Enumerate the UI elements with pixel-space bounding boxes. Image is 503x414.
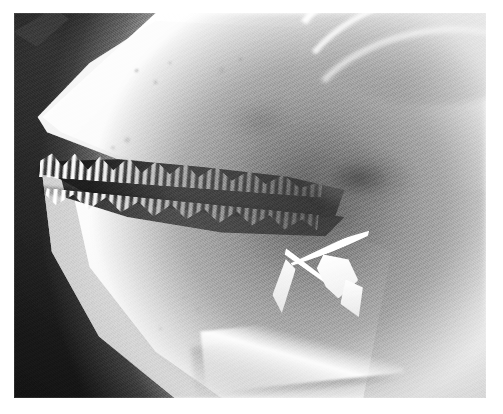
page-canvas — [0, 0, 503, 414]
figure-caption — [14, 400, 486, 412]
plate-edge-outline — [14, 13, 486, 398]
radiograph-plate — [14, 13, 486, 398]
